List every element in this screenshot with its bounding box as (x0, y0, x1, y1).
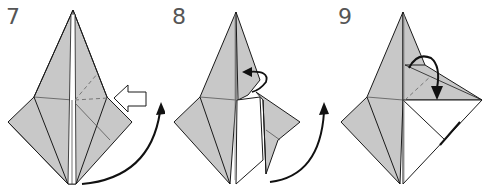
step-9-diagram (325, 0, 490, 192)
step-9-panel: 9 (325, 0, 490, 192)
step-7-panel: 7 (0, 0, 165, 192)
step-7-diagram (0, 0, 165, 192)
step-8-diagram (160, 0, 330, 192)
push-in-hollow-arrow-icon (114, 85, 146, 112)
step-8-panel: 8 (160, 0, 330, 192)
